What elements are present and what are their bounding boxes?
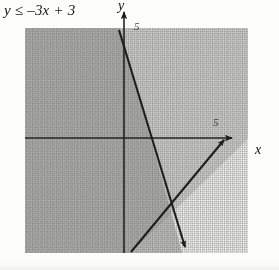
caption-text: y ≤ –3x + 3 <box>4 2 75 18</box>
y-axis-tick-label-5: 5 <box>134 20 140 32</box>
x-axis-tick-label-5: 5 <box>213 116 219 128</box>
x-axis-label: x <box>255 142 261 158</box>
plot-area <box>25 28 248 253</box>
inequality-caption: y ≤ –3x + 3 <box>4 1 75 19</box>
y-axis-label: y <box>118 0 124 14</box>
inequality-graph-figure: y ≤ –3x + 3 <box>0 0 279 270</box>
scan-edge-shadow <box>0 262 279 270</box>
